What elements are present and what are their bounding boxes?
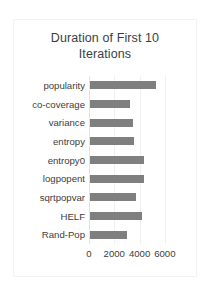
bar [90, 119, 133, 127]
category-label: Rand-Pop [13, 229, 85, 240]
gridline-6000 [165, 76, 166, 244]
chart-title-line-2: Iterations [14, 46, 196, 62]
bar [90, 156, 144, 164]
category-label: co-coverage [13, 99, 85, 110]
category-label: variance [13, 117, 85, 128]
category-label: HELF [13, 211, 85, 222]
category-label: logpopent [13, 173, 85, 184]
plot-area [89, 76, 175, 244]
bar [90, 175, 144, 183]
chart-container: Duration of First 10 Iterations populari… [13, 19, 197, 277]
plot-wrapper: popularityco-coveragevarianceentropyentr… [14, 76, 198, 276]
x-tick-label: 2000 [104, 248, 125, 259]
category-label: popularity [13, 80, 85, 91]
x-tick-label: 6000 [154, 248, 175, 259]
bar [90, 137, 134, 145]
category-axis: popularityco-coveragevarianceentropyentr… [14, 76, 88, 244]
x-tick-label: 4000 [129, 248, 150, 259]
bar [90, 212, 142, 220]
category-label: entropy [13, 136, 85, 147]
category-label: sqrtpopvar [13, 192, 85, 203]
chart-title: Duration of First 10 Iterations [14, 30, 196, 62]
bar [90, 100, 130, 108]
value-axis: 0200040006000 [89, 248, 189, 268]
category-label: entropy0 [13, 155, 85, 166]
chart-title-line-1: Duration of First 10 [14, 30, 196, 46]
bar [90, 81, 156, 89]
bar [90, 193, 136, 201]
bar [90, 231, 127, 239]
x-tick-label: 0 [86, 248, 91, 259]
